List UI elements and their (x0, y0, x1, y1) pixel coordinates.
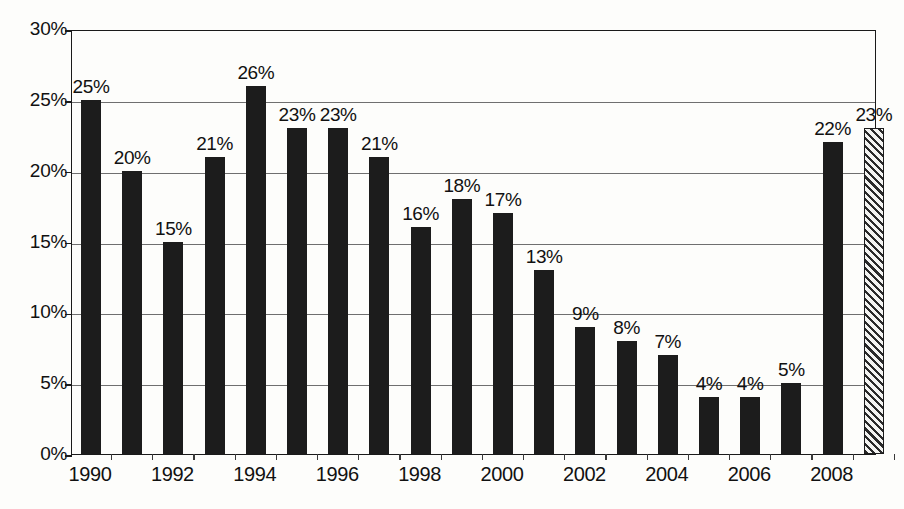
x-axis-label-1996: 1996 (297, 463, 377, 486)
x-axis-label-2000: 2000 (462, 463, 542, 486)
gridline-20 (72, 173, 875, 174)
x-axis-tick-15 (729, 454, 730, 460)
bar-2009[interactable] (864, 128, 884, 454)
bar-value-label-1990: 25% (61, 76, 121, 98)
x-axis-tick-12 (605, 454, 606, 460)
x-axis-tick-1 (152, 454, 153, 460)
bar-1999[interactable] (452, 199, 472, 454)
y-axis-label-15: 15% (0, 231, 67, 253)
x-axis-label-2004: 2004 (627, 463, 707, 486)
bar-value-label-1998: 16% (391, 203, 451, 225)
y-axis-tick-0 (65, 455, 72, 457)
chart-page: 0%5%10%15%20%25%30% 25%20%15%21%26%23%23… (0, 0, 904, 509)
bar-value-label-2009: 23% (844, 104, 904, 126)
x-axis-label-1998: 1998 (380, 463, 460, 486)
bar-1996[interactable] (328, 128, 348, 454)
x-axis-label-2008: 2008 (792, 463, 872, 486)
y-axis-label-0: 0% (0, 443, 67, 465)
bar-2007[interactable] (781, 383, 801, 454)
bar-1998[interactable] (411, 227, 431, 454)
bar-1997[interactable] (369, 157, 389, 455)
bar-value-label-2004: 7% (638, 331, 698, 353)
gridline-25 (72, 102, 875, 103)
bar-2000[interactable] (493, 213, 513, 454)
bar-1993[interactable] (205, 157, 225, 455)
bar-2001[interactable] (534, 270, 554, 454)
bar-1992[interactable] (163, 242, 183, 455)
bar-2005[interactable] (699, 397, 719, 454)
x-axis-tick-5 (317, 454, 318, 460)
y-axis-tick-15 (65, 243, 72, 245)
bar-2006[interactable] (740, 397, 760, 454)
bar-1995[interactable] (287, 128, 307, 454)
bar-2004[interactable] (658, 355, 678, 454)
y-axis-tick-30 (65, 30, 72, 32)
x-axis-label-2006: 2006 (709, 463, 789, 486)
bar-2003[interactable] (617, 341, 637, 454)
x-axis-tick-10 (523, 454, 524, 460)
bar-2008[interactable] (823, 142, 843, 454)
y-axis: 0%5%10%15%20%25%30% (0, 0, 67, 509)
x-axis-tick-9 (482, 454, 483, 460)
y-axis-tick-5 (65, 384, 72, 386)
bar-value-label-1991: 20% (102, 147, 162, 169)
bar-1990[interactable] (81, 100, 101, 454)
x-axis-tick-14 (688, 454, 689, 460)
bar-value-label-1993: 21% (185, 133, 245, 155)
bar-value-label-1997: 21% (349, 133, 409, 155)
y-axis-label-25: 25% (0, 89, 67, 111)
y-axis-tick-25 (65, 101, 72, 103)
bar-value-label-2001: 13% (514, 246, 574, 268)
gridline-15 (72, 244, 875, 245)
y-axis-tick-10 (65, 314, 72, 316)
bar-value-label-1992: 15% (143, 218, 203, 240)
y-axis-label-20: 20% (0, 160, 67, 182)
x-axis-tick-2 (193, 454, 194, 460)
y-axis-label-5: 5% (0, 372, 67, 394)
x-axis-tick-3 (235, 454, 236, 460)
x-axis-tick-13 (647, 454, 648, 460)
x-axis-tick-17 (811, 454, 812, 460)
bar-value-label-2007: 5% (761, 359, 821, 381)
x-axis-tick-8 (441, 454, 442, 460)
x-axis-tick-18 (853, 454, 854, 460)
x-axis-label-1990: 1990 (50, 463, 130, 486)
bar-value-label-2000: 17% (473, 189, 533, 211)
bar-1994[interactable] (246, 86, 266, 454)
x-axis-label-2002: 2002 (544, 463, 624, 486)
bar-2002[interactable] (575, 327, 595, 455)
plot-area: 25%20%15%21%26%23%23%21%16%18%17%13%9%8%… (71, 30, 876, 455)
bar-1991[interactable] (122, 171, 142, 454)
x-axis-tick-16 (770, 454, 771, 460)
x-axis-tick-6 (358, 454, 359, 460)
x-axis-tick-11 (564, 454, 565, 460)
x-axis-tick-4 (276, 454, 277, 460)
y-axis-label-30: 30% (0, 18, 67, 40)
x-axis-label-1994: 1994 (215, 463, 295, 486)
x-axis-tick-7 (399, 454, 400, 460)
x-axis-label-1992: 1992 (132, 463, 212, 486)
bar-value-label-1996: 23% (308, 104, 368, 126)
bar-value-label-1994: 26% (226, 62, 286, 84)
y-axis-label-10: 10% (0, 301, 67, 323)
x-axis-tick-19 (894, 454, 895, 460)
y-axis-tick-20 (65, 172, 72, 174)
gridline-10 (72, 314, 875, 315)
x-axis-tick-0 (111, 454, 112, 460)
